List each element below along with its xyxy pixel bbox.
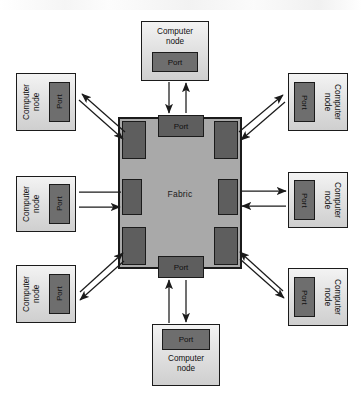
node-port[interactable]: Port [49,184,70,224]
computer-node-label: Computer node [322,84,342,120]
computer-node-label: Computer node [22,276,42,312]
link-node-lb-out [80,261,124,300]
computer-node-label: Computer node [322,279,342,315]
fabric-port-top[interactable]: Port [158,115,204,137]
node-port[interactable]: Port [152,52,198,72]
computer-node-middle-left[interactable]: Computer node Port [16,176,76,232]
node-port[interactable]: Port [294,180,315,220]
computer-node-bottom[interactable]: Port Computer node [152,324,220,386]
fabric-port-bottom[interactable]: Port [158,256,204,278]
computer-node-middle-right[interactable]: Port Computer node [288,172,348,228]
link-node-rt-out [239,95,283,132]
computer-node-label: Computer node [157,27,193,47]
diagram-canvas: Fabric Port Port Computer node Port Port… [0,0,362,394]
computer-node-lower-right[interactable]: Port Computer node [288,268,348,326]
link-node-rb-in [240,252,283,291]
link-node-lt-in [79,100,123,139]
computer-node-label: Computer node [22,84,42,120]
computer-node-upper-left[interactable]: Computer node Port [16,73,76,131]
link-node-rt-in [241,102,285,140]
link-node-lt-out [82,94,125,132]
node-port[interactable]: Port [162,329,210,350]
node-port[interactable]: Port [294,277,315,317]
link-node-lb-in [80,253,123,292]
computer-node-label: Computer node [22,186,42,222]
node-port[interactable]: Port [49,274,70,314]
node-port[interactable]: Port [49,82,70,122]
link-node-rb-out [240,259,284,298]
computer-node-label: Computer node [322,182,342,218]
computer-node-upper-right[interactable]: Port Computer node [288,73,348,131]
node-port[interactable]: Port [294,82,315,122]
computer-node-top[interactable]: Computer node Port [141,21,209,81]
computer-node-label: Computer node [168,354,204,374]
computer-node-lower-left[interactable]: Computer node Port [16,265,76,323]
